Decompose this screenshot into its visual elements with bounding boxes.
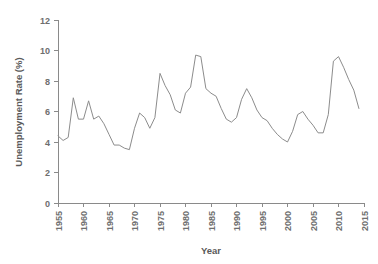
x-tick-label: 1955	[54, 211, 64, 231]
unemployment-rate-line	[58, 55, 359, 150]
axes-group	[58, 20, 364, 203]
x-tick-label: 2015	[360, 211, 370, 231]
x-axis-ticks: 1955196019651970197519801985199019952000…	[54, 203, 370, 231]
x-tick-label: 2005	[309, 211, 319, 231]
y-tick-label: 6	[45, 107, 50, 117]
x-tick-label: 2000	[283, 211, 293, 231]
unemployment-rate-chart: 024681012 195519601965197019751980198519…	[0, 0, 378, 264]
x-tick-label: 1960	[79, 211, 89, 231]
x-tick-label: 1990	[232, 211, 242, 231]
y-tick-label: 10	[40, 46, 50, 56]
series-group	[58, 55, 359, 150]
x-tick-label: 1995	[258, 211, 268, 231]
y-tick-label: 12	[40, 16, 50, 26]
y-tick-label: 2	[45, 168, 50, 178]
x-tick-label: 1980	[181, 211, 191, 231]
x-tick-label: 1970	[130, 211, 140, 231]
x-tick-label: 2010	[334, 211, 344, 231]
chart-canvas: 024681012 195519601965197019751980198519…	[0, 0, 378, 264]
x-axis-title: Year	[201, 245, 221, 256]
y-tick-label: 0	[45, 199, 50, 209]
x-tick-label: 1985	[207, 211, 217, 231]
y-axis-title: Unemployment Rate (%)	[13, 57, 24, 166]
y-tick-label: 4	[45, 138, 50, 148]
y-axis-ticks: 024681012	[40, 16, 58, 209]
y-tick-label: 8	[45, 77, 50, 87]
x-tick-label: 1965	[105, 211, 115, 231]
x-tick-label: 1975	[156, 211, 166, 231]
